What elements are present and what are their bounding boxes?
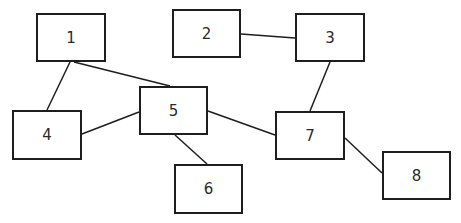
- node-4: 4: [12, 110, 82, 160]
- node-label: 2: [202, 25, 212, 43]
- edge-5-6: [175, 135, 207, 164]
- node-6: 6: [174, 164, 243, 214]
- node-label: 6: [204, 180, 214, 198]
- edge-4-5: [82, 112, 139, 134]
- node-1: 1: [36, 13, 106, 62]
- node-8: 8: [382, 151, 451, 200]
- edge-1-5: [74, 62, 170, 86]
- node-5: 5: [139, 86, 208, 135]
- node-3: 3: [295, 13, 365, 62]
- edge-7-8: [345, 138, 382, 173]
- edge-1-4: [47, 62, 70, 110]
- node-label: 4: [42, 126, 52, 144]
- node-label: 8: [412, 167, 422, 185]
- edge-5-7: [208, 111, 275, 135]
- edge-2-3: [241, 34, 295, 38]
- node-label: 7: [305, 127, 315, 145]
- node-label: 1: [66, 29, 76, 47]
- node-7: 7: [275, 111, 345, 160]
- node-2: 2: [172, 9, 241, 58]
- node-label: 3: [325, 29, 335, 47]
- edge-3-7: [310, 62, 330, 111]
- node-label: 5: [169, 102, 179, 120]
